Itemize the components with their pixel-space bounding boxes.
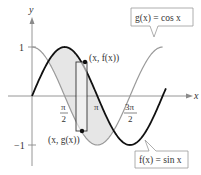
bottom-point-label: (x, g(x))	[48, 135, 80, 146]
x-tick-pi-half-den: 2	[62, 114, 67, 124]
g-label: g(x) = cos x	[135, 13, 181, 24]
y-tick-label-neg1: −1	[14, 140, 25, 151]
representative-rectangle	[76, 62, 87, 131]
x-tick-3pi-half-den: 2	[128, 114, 133, 124]
bottom-point-marker	[80, 129, 84, 133]
f-label: f(x) = sin x	[139, 155, 182, 166]
x-axis-arrow-icon	[186, 94, 193, 99]
top-point-label: (x, f(x))	[89, 53, 119, 64]
area-between-curves-figure: y x 1 −1 π 2 π 3π 2 (x, f(x)) (x, g(x)) …	[0, 0, 201, 175]
y-axis-label: y	[28, 4, 34, 15]
x-tick-3pi-half-num: 3π	[125, 102, 135, 112]
x-tick-pi: π	[94, 102, 99, 112]
y-axis-arrow-icon	[30, 17, 35, 24]
x-tick-pi-half-num: π	[61, 102, 66, 112]
x-axis-label: x	[193, 90, 199, 101]
y-tick-label-1: 1	[19, 42, 24, 53]
top-point-marker	[83, 60, 87, 64]
